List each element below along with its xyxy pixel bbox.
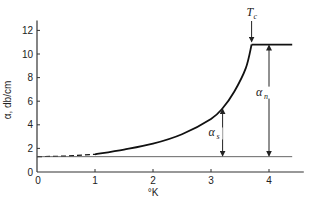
- plot-area: [37, 45, 292, 157]
- y-tick-label: 0: [27, 167, 33, 178]
- x-tick-label: 2: [150, 175, 156, 186]
- axes: 02468101201234°Kα, db/cm: [2, 21, 304, 198]
- y-tick-label: 6: [27, 96, 33, 107]
- x-tick-label: 4: [266, 175, 272, 186]
- alpha-s-label: α: [209, 125, 216, 139]
- y-tick-label: 8: [27, 72, 33, 83]
- alpha-n-label-sub: n: [264, 92, 268, 101]
- y-tick-label: 10: [22, 49, 34, 60]
- x-tick-label: 3: [208, 175, 214, 186]
- x-axis-label: °K: [148, 187, 159, 198]
- y-tick-label: 4: [27, 119, 33, 130]
- series-line: [95, 45, 252, 155]
- tc-label-sub: c: [254, 12, 258, 21]
- alpha-s-label-sub: s: [217, 132, 220, 141]
- y-axis-label: α, db/cm: [2, 81, 13, 120]
- chart: 02468101201234°Kα, db/cm Tcαsαn: [0, 0, 313, 205]
- annotations: Tcαsαn: [208, 5, 270, 156]
- y-tick-label: 2: [27, 143, 33, 154]
- x-tick-label: 1: [92, 175, 98, 186]
- y-tick-label: 12: [22, 25, 34, 36]
- x-tick-label: 0: [35, 175, 41, 186]
- alpha-n-label: α: [256, 85, 263, 99]
